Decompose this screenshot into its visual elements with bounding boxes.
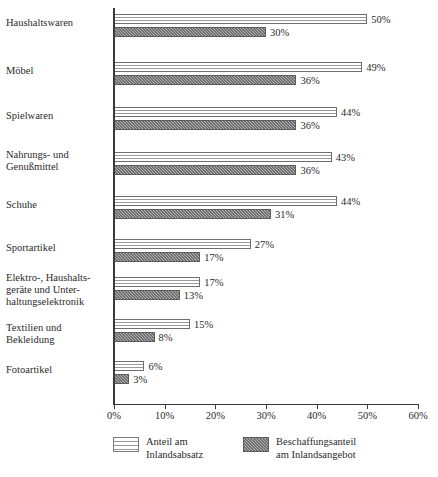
- legend-swatch-icon-series-a: [113, 437, 139, 452]
- bar-series-a: [114, 14, 367, 24]
- bar-series-a: [114, 152, 332, 162]
- chart-legend: Anteil am Inlandsabsatz Beschaffungsante…: [0, 436, 438, 477]
- category-label: Nahrungs- und Genußmittel: [6, 149, 110, 173]
- bar-series-a: [114, 107, 337, 117]
- plot-area: 50%30%49%36%44%36%43%36%44%31%27%17%17%1…: [114, 8, 418, 404]
- legend-entry-series-b: Beschaffungsanteil am Inlandsangebot: [243, 436, 356, 461]
- x-tick: [367, 404, 368, 409]
- bar-series-a: [114, 62, 362, 72]
- bar-value-label: 43%: [336, 152, 355, 163]
- category-label: Sportartikel: [6, 242, 110, 254]
- bar-chart: 50%30%49%36%44%36%43%36%44%31%27%17%17%1…: [0, 0, 438, 477]
- bar-value-label: 36%: [300, 120, 319, 131]
- x-tick-label: 0%: [94, 410, 134, 422]
- category-label: Schuhe: [6, 199, 110, 211]
- bar-value-label: 49%: [366, 62, 385, 73]
- bar-value-label: 44%: [341, 107, 360, 118]
- bar-series-a: [114, 277, 200, 287]
- bar-value-label: 30%: [270, 27, 289, 38]
- bar-series-b: [114, 120, 296, 130]
- legend-label-series-a: Anteil am Inlandsabsatz: [146, 436, 203, 461]
- bar-value-label: 50%: [371, 14, 390, 25]
- x-tick-label: 60%: [398, 410, 438, 422]
- x-tick-label: 20%: [195, 410, 235, 422]
- bar-value-label: 17%: [204, 277, 223, 288]
- bar-series-b: [114, 75, 296, 85]
- legend-label-series-b: Beschaffungsanteil am Inlandsangebot: [276, 436, 356, 461]
- bar-series-b: [114, 252, 200, 262]
- category-label: Elektro-, Haushalts- geräte und Unter- h…: [6, 272, 110, 309]
- x-tick-label: 10%: [145, 410, 185, 422]
- x-tick: [215, 404, 216, 409]
- category-label: Spielwaren: [6, 110, 110, 122]
- bar-value-label: 8%: [159, 332, 173, 343]
- bar-series-a: [114, 361, 144, 371]
- bar-series-b: [114, 374, 129, 384]
- x-tick-label: 50%: [347, 410, 387, 422]
- y-axis-line: [113, 8, 115, 405]
- bar-value-label: 36%: [300, 165, 319, 176]
- legend-entry-series-a: Anteil am Inlandsabsatz: [113, 436, 203, 461]
- x-tick: [266, 404, 267, 409]
- bar-value-label: 31%: [275, 209, 294, 220]
- bar-value-label: 6%: [148, 361, 162, 372]
- x-tick: [418, 404, 419, 409]
- bar-series-b: [114, 27, 266, 37]
- bar-series-b: [114, 209, 271, 219]
- x-tick-label: 40%: [297, 410, 337, 422]
- x-tick: [165, 404, 166, 409]
- legend-swatch-icon-series-b: [243, 437, 269, 452]
- bar-series-a: [114, 239, 251, 249]
- bar-value-label: 36%: [300, 75, 319, 86]
- category-label: Fotoartikel: [6, 364, 110, 376]
- bar-series-a: [114, 319, 190, 329]
- x-tick: [114, 404, 115, 409]
- bar-value-label: 15%: [194, 319, 213, 330]
- bar-value-label: 44%: [341, 196, 360, 207]
- bar-value-label: 3%: [133, 374, 147, 385]
- x-tick: [317, 404, 318, 409]
- bar-series-b: [114, 165, 296, 175]
- category-label: Textilien und Bekleidung: [6, 322, 110, 346]
- bar-value-label: 27%: [255, 239, 274, 250]
- bar-series-b: [114, 290, 180, 300]
- x-tick-label: 30%: [246, 410, 286, 422]
- bar-value-label: 13%: [184, 290, 203, 301]
- bar-value-label: 17%: [204, 252, 223, 263]
- bar-series-a: [114, 196, 337, 206]
- category-label: Möbel: [6, 65, 110, 77]
- category-label: Haushaltswaren: [6, 17, 110, 29]
- bar-series-b: [114, 332, 155, 342]
